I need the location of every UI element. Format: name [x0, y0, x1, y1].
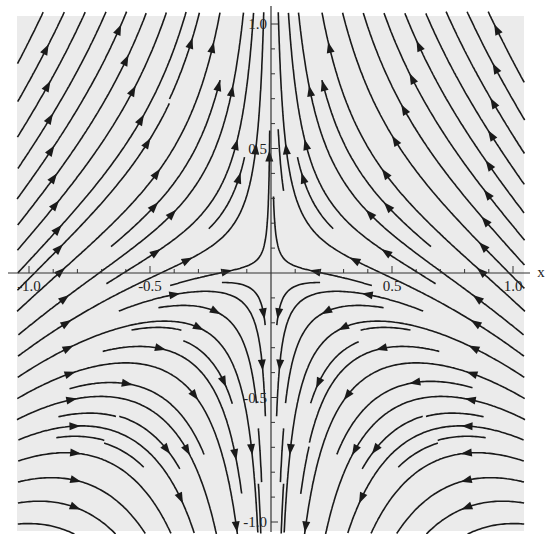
stream-plot: -1.0-0.50.51.01.00.5-0.5-1.0x: [0, 0, 547, 534]
x-axis-label: x: [537, 264, 545, 280]
stream-plot-svg: -1.0-0.50.51.01.00.5-0.5-1.0x: [0, 0, 547, 534]
y-tick-label: 1.0: [248, 16, 267, 32]
y-tick-label: 0.5: [248, 141, 267, 157]
x-tick-label: -1.0: [17, 278, 41, 294]
y-tick-label: -1.0: [243, 514, 267, 530]
x-tick-label: -0.5: [138, 278, 162, 294]
x-tick-label: 0.5: [383, 278, 402, 294]
y-tick-label: -0.5: [243, 390, 267, 406]
x-tick-label: 1.0: [504, 278, 523, 294]
